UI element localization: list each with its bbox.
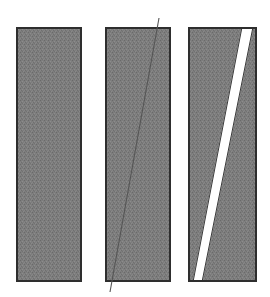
panel-1-undeformed-block: [17, 28, 81, 281]
panel-1-body: [17, 28, 81, 281]
panel-2-block-with-hairline-cut: [106, 18, 170, 292]
diagram-svg: [0, 0, 270, 297]
figure-canvas: [0, 0, 270, 297]
panel-3-block-with-open-wedge: [189, 27, 256, 282]
panel-2-body: [106, 28, 170, 281]
